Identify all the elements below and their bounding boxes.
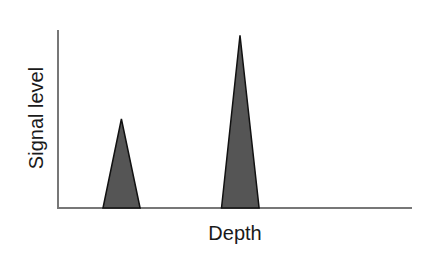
y-axis-label: Signal level	[25, 67, 48, 169]
chart-canvas	[0, 0, 428, 257]
peak-1	[103, 119, 140, 208]
peak-2	[222, 35, 260, 208]
x-axis-label: Depth	[208, 222, 261, 245]
